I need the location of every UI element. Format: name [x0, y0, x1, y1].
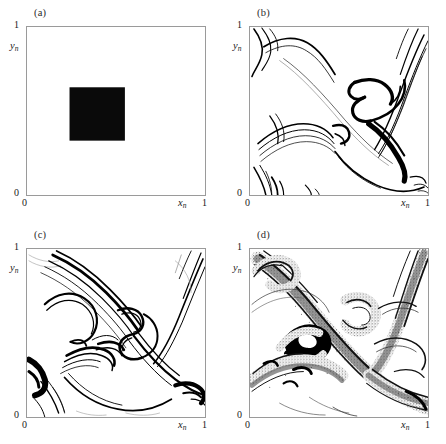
y-axis-min-tick-a: 0	[14, 187, 19, 198]
y-axis-label-a: yn	[10, 40, 18, 51]
y-axis-label-text-d: y	[233, 262, 238, 273]
x-axis-max-tick-d: 1	[425, 419, 430, 430]
x-axis-max-tick-a: 1	[202, 197, 207, 208]
x-axis-label-sub-d: n	[406, 423, 410, 432]
y-axis-label-d: yn	[233, 262, 241, 273]
y-axis-min-tick-b: 0	[237, 187, 242, 198]
plot-canvas-d	[250, 249, 428, 417]
x-axis-label-text-d: x	[401, 419, 406, 430]
x-axis-min-tick-c: 0	[22, 419, 27, 430]
plot-frame-b	[249, 26, 429, 196]
y-axis-label-sub-c: n	[15, 266, 19, 275]
y-axis-max-tick-b: 1	[237, 19, 242, 30]
x-axis-label-text-c: x	[178, 419, 183, 430]
x-axis-label-text-a: x	[178, 197, 183, 208]
x-axis-max-tick-c: 1	[202, 419, 207, 430]
x-axis-min-tick-d: 0	[245, 419, 250, 430]
panel-letter-c: (c)	[34, 229, 46, 240]
attractor-bands-d	[252, 251, 428, 416]
plot-frame-c	[26, 248, 206, 418]
plot-canvas-c	[27, 249, 205, 417]
y-axis-max-tick-d: 1	[237, 241, 242, 252]
y-axis-label-b: yn	[233, 40, 241, 51]
y-axis-max-tick-a: 1	[14, 19, 19, 30]
panel-a: (a) 1 0 0 1 yn xn n = 0	[0, 0, 223, 222]
x-axis-label-sub-b: n	[406, 201, 410, 210]
figure-panels: (a) 1 0 0 1 yn xn n = 0 (b) 1 0 0 1 yn x…	[0, 0, 446, 444]
y-axis-label-text-c: y	[10, 262, 15, 273]
y-axis-label-sub-b: n	[238, 44, 242, 53]
y-axis-min-tick-c: 0	[14, 409, 19, 420]
attractor-curves-c	[29, 251, 205, 417]
y-axis-label-c: yn	[10, 262, 18, 273]
x-axis-label-text-b: x	[401, 197, 406, 208]
y-axis-label-text-b: y	[233, 40, 238, 51]
x-axis-label-c: xn	[178, 419, 186, 430]
plot-frame-a	[26, 26, 206, 196]
plot-canvas-b	[250, 27, 428, 195]
x-axis-max-tick-b: 1	[425, 197, 430, 208]
panel-letter-a: (a)	[34, 7, 46, 18]
y-axis-label-sub-d: n	[238, 266, 242, 275]
y-axis-label-text-a: y	[10, 40, 15, 51]
panel-b: (b) 1 0 0 1 yn xn n = 4	[223, 0, 446, 222]
x-axis-min-tick-b: 0	[245, 197, 250, 208]
attractor-curves-b	[252, 28, 428, 195]
plot-frame-d	[249, 248, 429, 418]
x-axis-label-a: xn	[178, 197, 186, 208]
panel-letter-b: (b)	[257, 7, 270, 18]
y-axis-label-sub-a: n	[15, 44, 19, 53]
initial-square-region	[70, 87, 125, 140]
plot-canvas-a	[27, 27, 205, 195]
y-axis-min-tick-d: 0	[237, 409, 242, 420]
y-axis-max-tick-c: 1	[14, 241, 19, 252]
x-axis-label-sub-c: n	[183, 423, 187, 432]
panel-d: (d) 1 0 0 1 yn xn n = 12	[223, 222, 446, 444]
x-axis-label-d: xn	[401, 419, 409, 430]
x-axis-min-tick-a: 0	[22, 197, 27, 208]
x-axis-label-b: xn	[401, 197, 409, 208]
panel-c: (c) 1 0 0 1 yn xn n = 5	[0, 222, 223, 444]
panel-letter-d: (d)	[257, 229, 270, 240]
x-axis-label-sub-a: n	[183, 201, 187, 210]
